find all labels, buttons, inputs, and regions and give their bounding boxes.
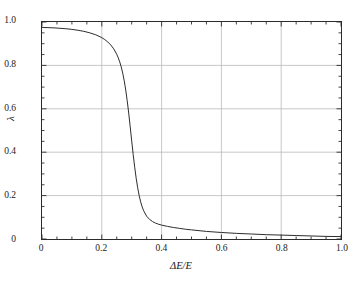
x-tick-label: 0.6 [216,244,228,254]
x-axis-label-text: ΔE/E [170,260,192,271]
plot-area [41,21,342,240]
y-tick-label: 0.2 [4,191,16,201]
y-tick-label: 0.8 [4,60,16,70]
data-curve [42,22,341,239]
x-tick-label: 1.0 [336,244,348,254]
figure: λ 00.20.40.60.81.0 00.20.40.60.81.0 ΔE/E [0,0,362,282]
y-tick-label: 0.6 [4,104,16,114]
x-tick-label: 0.2 [95,244,107,254]
x-tick-label: 0 [39,244,44,254]
y-tick-label: 0.4 [4,148,16,158]
y-tick-label: 0 [11,235,16,245]
y-tick-label: 1.0 [4,16,16,26]
x-tick-label: 0.4 [155,244,167,254]
y-axis-label: λ [4,116,16,121]
x-axis-label: ΔE/E [0,260,362,271]
x-tick-label: 0.8 [276,244,288,254]
